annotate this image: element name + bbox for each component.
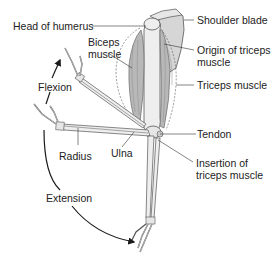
label-tendon: Tendon xyxy=(197,128,231,140)
label-radius: Radius xyxy=(59,150,92,162)
label-ulna: Ulna xyxy=(111,147,133,159)
label-biceps-line2: muscle xyxy=(88,48,121,60)
humerus-bone xyxy=(144,18,161,133)
label-insertion-line1: Insertion of xyxy=(196,157,263,169)
label-biceps-line1: Biceps xyxy=(88,36,121,48)
label-extension: Extension xyxy=(46,192,92,204)
label-head-of-humerus: Head of humerus xyxy=(13,20,94,32)
label-shoulder-blade: Shoulder blade xyxy=(197,14,268,26)
label-origin-of-triceps: Origin of triceps muscle xyxy=(197,44,271,68)
label-flexion: Flexion xyxy=(38,81,72,93)
label-origin-line1: Origin of triceps xyxy=(197,44,271,56)
label-insertion-of-triceps: Insertion of triceps muscle xyxy=(196,157,263,181)
label-insertion-line2: triceps muscle xyxy=(196,169,263,181)
label-origin-line2: muscle xyxy=(197,56,271,68)
label-biceps-muscle: Biceps muscle xyxy=(88,36,121,60)
label-triceps-muscle: Triceps muscle xyxy=(197,79,267,91)
forearm-extended xyxy=(132,136,160,252)
arm-muscle-diagram xyxy=(0,0,280,265)
